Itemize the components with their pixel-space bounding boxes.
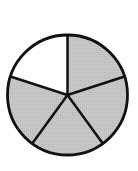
fraction-circle-diagram bbox=[0, 0, 138, 171]
